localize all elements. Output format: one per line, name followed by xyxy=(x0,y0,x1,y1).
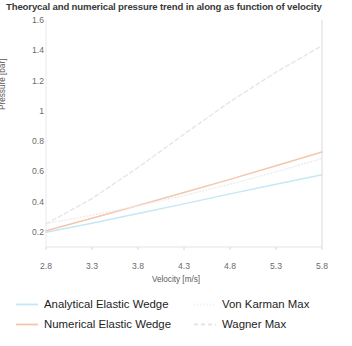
x-tick-label: 3.8 xyxy=(132,261,144,271)
legend-label: Numerical Elastic Wedge xyxy=(44,318,171,330)
legend-swatch-icon xyxy=(194,319,216,330)
x-tick-label: 4.3 xyxy=(178,261,190,271)
legend-swatch-icon xyxy=(16,299,38,310)
legend-item[interactable]: Von Karman Max xyxy=(194,298,309,310)
x-tick-label: 2.8 xyxy=(40,261,52,271)
x-tick-label: 4.8 xyxy=(224,261,236,271)
x-tick-label: 5.3 xyxy=(270,261,282,271)
series-line xyxy=(46,46,322,224)
figure-container: Theorycal and numerical pressure trend i… xyxy=(0,0,352,346)
legend-swatch-icon xyxy=(194,299,216,310)
legend-item[interactable]: Wagner Max xyxy=(194,318,286,330)
x-axis-ticks: 2.83.33.84.34.85.35.8 xyxy=(0,261,352,275)
plot-area: Pressure [bar] 0.20.40.60.811.21.41.6 2.… xyxy=(0,14,352,260)
legend-item[interactable]: Numerical Elastic Wedge xyxy=(16,318,171,330)
legend-label: Wagner Max xyxy=(222,318,286,330)
series-line xyxy=(46,152,322,231)
chart-title: Theorycal and numerical pressure trend i… xyxy=(6,1,322,12)
series-layer xyxy=(46,46,322,233)
legend-label: Von Karman Max xyxy=(222,298,309,310)
x-axis-label: Velocity [m/s] xyxy=(0,275,352,284)
series-line xyxy=(46,158,322,223)
series-line xyxy=(46,175,322,233)
chart-legend: Analytical Elastic WedgeNumerical Elasti… xyxy=(0,296,352,346)
legend-label: Analytical Elastic Wedge xyxy=(44,298,169,310)
legend-swatch-icon xyxy=(16,319,38,330)
chart-canvas xyxy=(0,14,352,260)
x-tick-label: 5.8 xyxy=(316,261,328,271)
x-tick-label: 3.3 xyxy=(86,261,98,271)
legend-item[interactable]: Analytical Elastic Wedge xyxy=(16,298,169,310)
